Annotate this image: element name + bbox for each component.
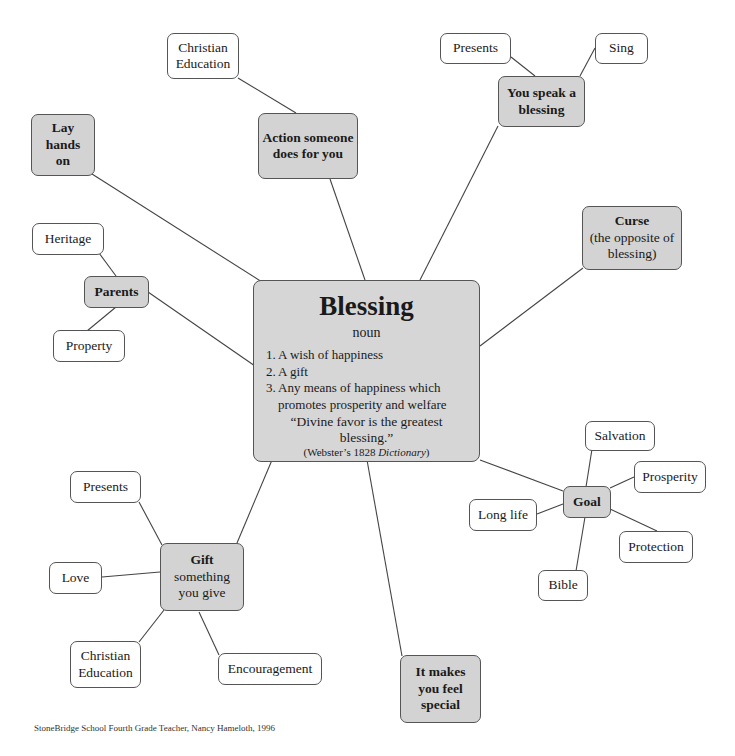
node-encouragement: Encouragement (218, 653, 322, 685)
node-prosperity: Prosperity (634, 461, 706, 493)
node-heritage: Heritage (32, 223, 104, 255)
center-node-blessing: Blessing noun 1.A wish of happiness 2.A … (253, 280, 480, 462)
footer-credit: StoneBridge School Fourth Grade Teacher,… (34, 723, 275, 733)
node-christian-education-top: Christian Education (167, 33, 239, 79)
node-you-speak-a-blessing: You speak a blessing (498, 76, 585, 127)
node-goal: Goal (563, 486, 611, 518)
node-curse: Curse (the opposite of blessing) (582, 206, 682, 270)
definition-list: 1.A wish of happiness 2.A gift 3.Any mea… (264, 347, 469, 413)
definition-item: 2.A gift (266, 364, 469, 381)
node-protection: Protection (619, 531, 693, 563)
node-parents: Parents (84, 276, 149, 308)
node-bible: Bible (538, 570, 588, 601)
node-gift: Gift something you give (160, 543, 244, 611)
node-long-life: Long life (469, 499, 537, 531)
node-property: Property (53, 330, 125, 362)
node-salvation: Salvation (585, 421, 655, 451)
quote: “Divine favor is the greatest blessing.” (264, 414, 469, 446)
node-presents-gift: Presents (70, 471, 141, 503)
part-of-speech: noun (264, 325, 469, 341)
node-action-someone-does: Action someone does for you (258, 113, 358, 179)
node-makes-you-feel-special: It makes you feel special (400, 655, 481, 723)
definition-item: 3.Any means of happiness which promotes … (266, 380, 469, 413)
node-presents-top: Presents (440, 33, 511, 64)
center-title: Blessing (264, 291, 469, 321)
node-love: Love (49, 562, 102, 594)
node-lay-hands-on: Lay hands on (31, 114, 95, 176)
citation: (Webster’s 1828 Dictionary) (264, 446, 469, 459)
node-christian-education-gift: Christian Education (70, 641, 141, 688)
node-sing: Sing (595, 33, 648, 64)
definition-item: 1.A wish of happiness (266, 347, 469, 364)
